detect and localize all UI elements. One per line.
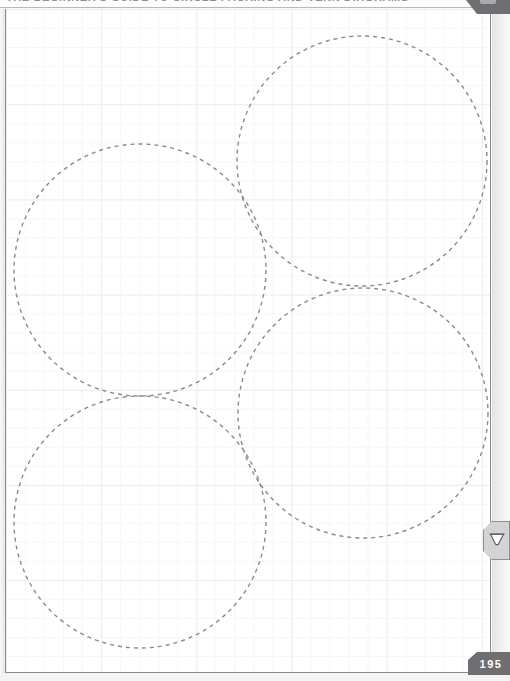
page-title: THE BEGINNER'S GUIDE TO CIRCLE PACKING A…	[6, 0, 409, 3]
graph-paper-page[interactable]	[5, 9, 491, 673]
page-number-label: 195	[475, 658, 502, 670]
header-divider	[0, 7, 510, 8]
page-number-badge: 195	[468, 652, 510, 675]
notebook-app: THE BEGINNER'S GUIDE TO CIRCLE PACKING A…	[0, 0, 510, 681]
edge-tool-button[interactable]	[483, 521, 510, 560]
corner-tab-notch	[480, 0, 496, 4]
bottom-gutter	[0, 673, 510, 681]
right-gutter	[492, 9, 510, 673]
left-gutter	[0, 9, 5, 673]
trash-icon	[489, 532, 505, 547]
header-bar: THE BEGINNER'S GUIDE TO CIRCLE PACKING A…	[0, 0, 510, 8]
